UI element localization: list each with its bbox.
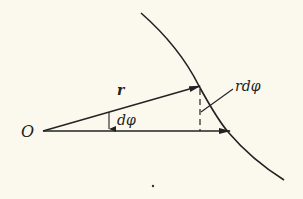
radius-vector-label: r: [117, 82, 126, 98]
origin-label: O: [21, 122, 34, 141]
angle-label: dφ: [117, 112, 136, 128]
polar-arc-length-diagram: O r dφ rdφ: [0, 0, 303, 199]
stray-mark: [152, 185, 154, 187]
arc-length-leader-line: [201, 89, 233, 112]
arc-length-label: rdφ: [235, 78, 261, 94]
